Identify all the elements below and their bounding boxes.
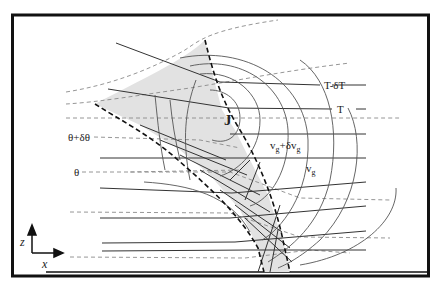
theta-label: θ <box>74 166 79 178</box>
x-axis-label: x <box>41 257 48 271</box>
frontal-zone-diagram: J T-δT T θ+δθ θ vg+δvg vg z x <box>0 0 441 289</box>
jet-core-label: J <box>224 112 232 128</box>
temperature-label: T <box>337 103 344 115</box>
theta-upper-label: θ+δθ <box>68 131 90 143</box>
temperature-upper-label: T-δT <box>324 79 346 91</box>
z-axis-label: z <box>19 235 25 249</box>
